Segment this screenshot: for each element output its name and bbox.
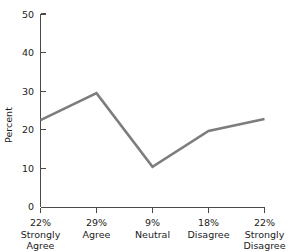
chart-page: Percent 50 40 30 20 10 0 22% 29% 9% 18% … — [0, 0, 297, 252]
x-category-label-4-line1: Strongly — [245, 229, 285, 240]
x-percent-label-1: 29% — [86, 217, 107, 228]
x-percent-label-4: 22% — [254, 217, 275, 228]
x-percent-label-0: 22% — [30, 217, 51, 228]
x-category-label-2-line1: Neutral — [135, 229, 170, 240]
x-category-label-0-line1: Strongly — [21, 229, 61, 240]
x-percent-label-3: 18% — [198, 217, 219, 228]
x-category-label-1-line1: Agree — [83, 229, 111, 240]
y-tick-label-20: 20 — [22, 124, 34, 135]
x-category-label-4-line2: Disagree — [243, 240, 285, 251]
y-tick-label-50: 50 — [22, 9, 34, 20]
y-tick-label-30: 30 — [22, 86, 34, 97]
line-chart: Percent 50 40 30 20 10 0 22% 29% 9% 18% … — [0, 0, 297, 252]
data-series-line — [41, 93, 265, 167]
y-axis-label: Percent — [3, 107, 14, 143]
y-tick-label-0: 0 — [28, 201, 34, 212]
y-tick-label-10: 10 — [22, 163, 34, 174]
x-percent-label-2: 9% — [145, 217, 160, 228]
x-category-label-0-line2: Agree — [27, 240, 55, 251]
x-category-label-3-line1: Disagree — [187, 229, 229, 240]
y-tick-label-40: 40 — [22, 47, 34, 58]
